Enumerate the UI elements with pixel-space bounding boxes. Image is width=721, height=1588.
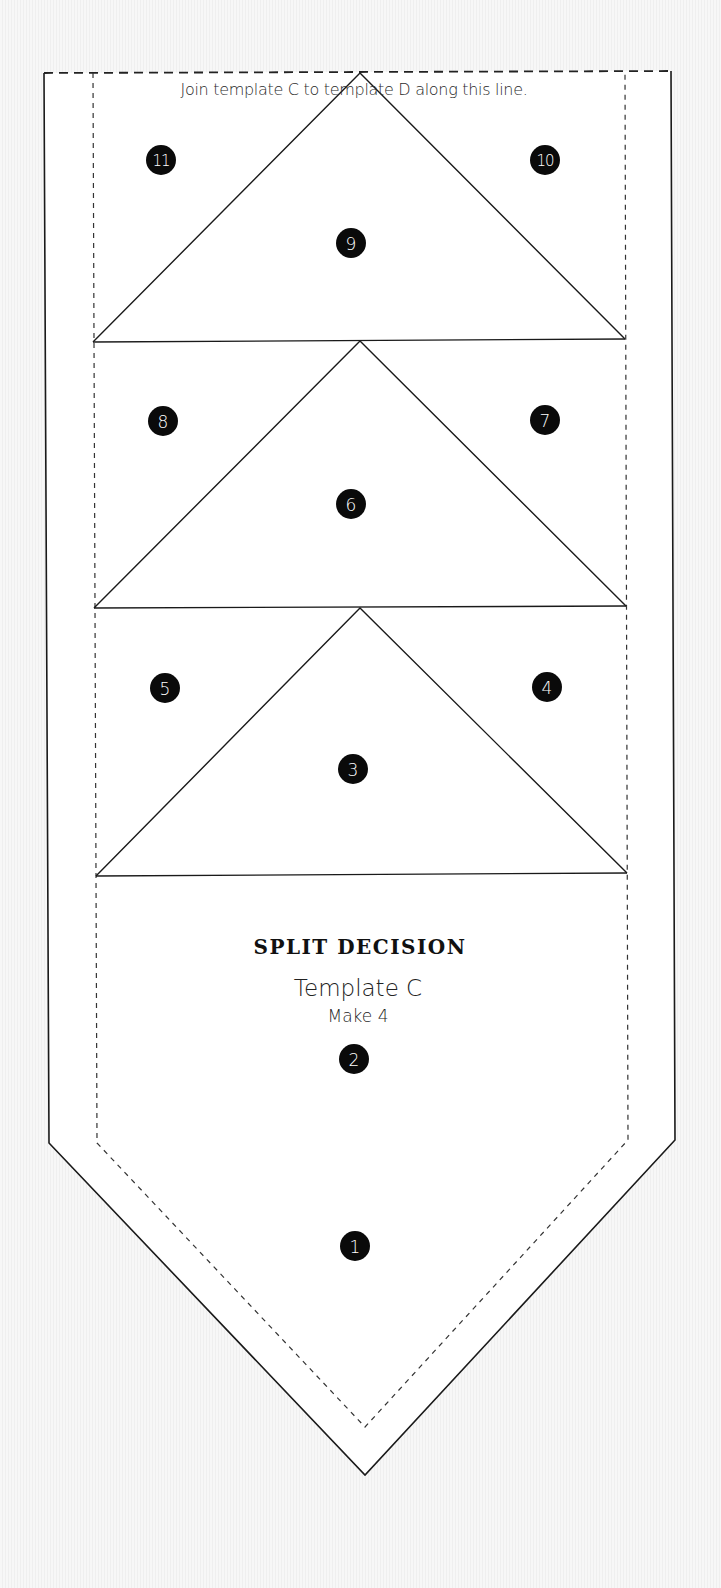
- piecing-marker-1: 1: [340, 1231, 370, 1261]
- paper-piecing-template: 1110987654321: [0, 0, 721, 1588]
- piecing-marker-5: 5: [150, 673, 180, 703]
- pattern-title: SPLIT DECISION: [253, 935, 466, 959]
- piecing-marker-7: 7: [530, 405, 560, 435]
- marker-number: 7: [540, 411, 551, 431]
- marker-number: 9: [346, 234, 357, 254]
- join-instruction-text: Join template C to template D along this…: [181, 80, 528, 99]
- marker-number: 3: [348, 760, 359, 780]
- marker-number: 4: [542, 678, 553, 698]
- marker-number: 10: [536, 152, 554, 170]
- piecing-marker-11: 11: [146, 145, 176, 175]
- marker-number: 8: [158, 412, 169, 432]
- piecing-marker-3: 3: [338, 754, 368, 784]
- marker-number: 5: [160, 679, 171, 699]
- marker-number: 6: [346, 495, 357, 515]
- marker-number: 2: [349, 1050, 360, 1070]
- make-quantity: Make 4: [327, 1006, 388, 1026]
- template-name: Template C: [294, 975, 422, 1001]
- piecing-marker-8: 8: [148, 406, 178, 436]
- piecing-marker-6: 6: [336, 489, 366, 519]
- marker-number: 11: [152, 152, 169, 170]
- piecing-marker-10: 10: [530, 145, 560, 175]
- piecing-marker-4: 4: [532, 672, 562, 702]
- piecing-marker-2: 2: [339, 1044, 369, 1074]
- marker-number: 1: [350, 1237, 361, 1257]
- piecing-marker-9: 9: [336, 228, 366, 258]
